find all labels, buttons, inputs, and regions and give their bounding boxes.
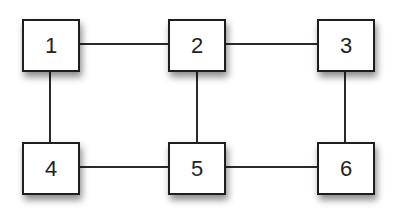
edge-2-3 — [226, 43, 319, 45]
node-3-label: 3 — [340, 35, 352, 57]
node-5-label: 5 — [191, 158, 203, 180]
node-2: 2 — [168, 19, 226, 72]
node-6: 6 — [317, 142, 375, 195]
grid-graph-diagram: 1 2 3 4 5 6 — [0, 0, 395, 212]
edge-1-2 — [78, 43, 170, 45]
edge-3-6 — [344, 71, 346, 143]
node-6-label: 6 — [340, 158, 352, 180]
node-5: 5 — [168, 142, 226, 195]
node-2-label: 2 — [191, 35, 203, 57]
edge-1-4 — [49, 71, 51, 143]
node-4: 4 — [22, 142, 80, 195]
edge-4-5 — [78, 166, 170, 168]
edge-5-6 — [226, 166, 319, 168]
edge-2-5 — [196, 71, 198, 143]
node-3: 3 — [317, 19, 375, 72]
node-1: 1 — [22, 19, 80, 72]
node-1-label: 1 — [45, 35, 57, 57]
node-4-label: 4 — [45, 158, 57, 180]
